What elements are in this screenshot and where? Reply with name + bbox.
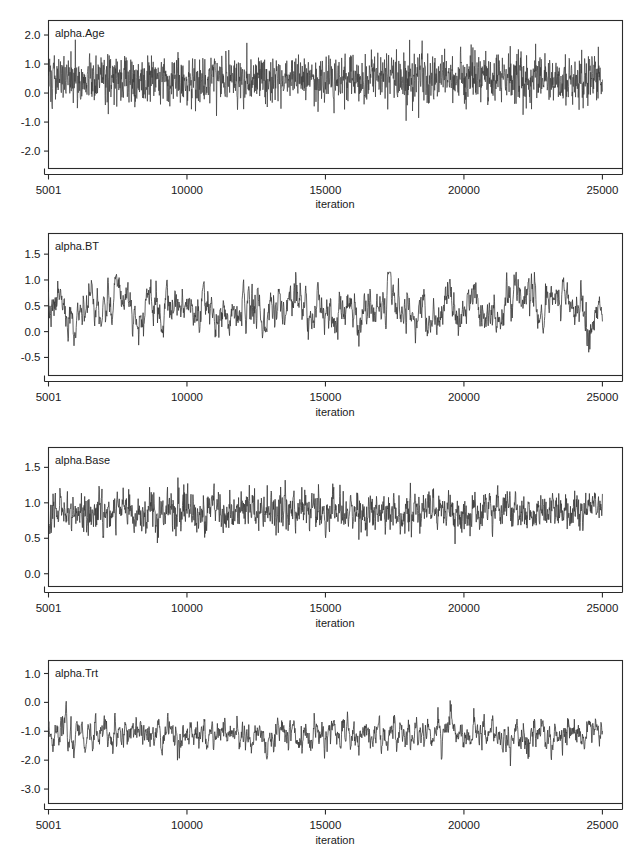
y-tick-label: 0.0 (25, 696, 41, 708)
x-axis-1: 500110000150002000025000 (36, 376, 623, 403)
y-tick-label: -3.0 (21, 783, 41, 795)
series-label-1: alpha.BT (55, 240, 99, 252)
y-tick-label: 1.5 (25, 461, 41, 473)
y-axis-0: 2.01.00.0-1.0-2.0 (21, 29, 49, 157)
x-tick-label: 15000 (309, 184, 341, 196)
x-tick-label: 10000 (171, 184, 203, 196)
y-tick-label: 0.0 (25, 87, 41, 99)
trace-panel-alpha-base: 1.51.00.50.0 500110000150002000025000 al… (0, 442, 643, 647)
y-tick-label: -1.0 (21, 116, 41, 128)
y-axis-3: 1.00.0-1.0-2.0-3.0 (21, 668, 49, 796)
x-tick-label: 20000 (448, 602, 480, 614)
x-tick-label: 5001 (36, 819, 62, 831)
trace-panel-alpha-bt: 1.51.00.50.0-0.5 50011000015000200002500… (0, 228, 643, 433)
trace-line-1 (49, 272, 603, 352)
series-label-0: alpha.Age (55, 27, 105, 39)
series-label-2: alpha.Base (55, 454, 110, 466)
x-tick-label: 25000 (586, 819, 618, 831)
y-axis-2: 1.51.00.50.0 (25, 461, 49, 579)
y-tick-label: 0.5 (25, 300, 41, 312)
y-tick-label: 1.0 (25, 274, 41, 286)
x-axis-0: 500110000150002000025000 (36, 169, 623, 196)
x-tick-label: 10000 (171, 819, 203, 831)
x-tick-label: 20000 (448, 391, 480, 403)
x-axis-title-2: iteration (315, 617, 354, 629)
trace-plot-svg-0: 2.01.00.0-1.0-2.0 5001100001500020000250… (0, 10, 643, 215)
x-tick-label: 15000 (309, 391, 341, 403)
trace-plot-svg-3: 1.00.0-1.0-2.0-3.0 500110000150002000025… (0, 655, 643, 860)
trace-panel-alpha-age: 2.01.00.0-1.0-2.0 5001100001500020000250… (0, 10, 643, 215)
y-tick-label: -1.0 (21, 725, 41, 737)
y-tick-label: 0.5 (25, 532, 41, 544)
trace-line-3 (49, 701, 603, 766)
y-tick-label: -2.0 (21, 145, 41, 157)
x-axis-title-0: iteration (315, 198, 354, 210)
x-tick-label: 5001 (36, 391, 62, 403)
x-tick-label: 5001 (36, 184, 62, 196)
x-tick-label: 5001 (36, 602, 62, 614)
y-tick-label: -0.5 (21, 351, 41, 363)
x-tick-label: 15000 (309, 819, 341, 831)
trace-line-0 (49, 40, 603, 121)
trace-plot-svg-1: 1.51.00.50.0-0.5 50011000015000200002500… (0, 228, 643, 433)
x-axis-title-3: iteration (315, 834, 354, 846)
x-axis-title-1: iteration (315, 406, 354, 418)
y-tick-label: -2.0 (21, 754, 41, 766)
trace-plot-svg-2: 1.51.00.50.0 500110000150002000025000 al… (0, 442, 643, 647)
y-tick-label: 1.0 (25, 58, 41, 70)
y-tick-label: 0.0 (25, 326, 41, 338)
y-tick-label: 0.0 (25, 568, 41, 580)
x-tick-label: 10000 (171, 391, 203, 403)
y-axis-1: 1.51.00.50.0-0.5 (21, 248, 49, 363)
y-tick-label: 1.0 (25, 497, 41, 509)
x-tick-label: 10000 (171, 602, 203, 614)
x-tick-label: 25000 (586, 391, 618, 403)
x-tick-label: 15000 (309, 602, 341, 614)
x-tick-label: 25000 (586, 602, 618, 614)
y-tick-label: 2.0 (25, 29, 41, 41)
x-tick-label: 20000 (448, 184, 480, 196)
series-label-3: alpha.Trt (55, 667, 98, 679)
x-tick-label: 20000 (448, 819, 480, 831)
trace-panel-alpha-trt: 1.00.0-1.0-2.0-3.0 500110000150002000025… (0, 655, 643, 860)
y-tick-label: 1.5 (25, 248, 41, 260)
x-axis-2: 500110000150002000025000 (36, 587, 623, 614)
y-tick-label: 1.0 (25, 668, 41, 680)
trace-line-2 (49, 478, 603, 544)
x-axis-3: 500110000150002000025000 (36, 804, 623, 831)
x-tick-label: 25000 (586, 184, 618, 196)
